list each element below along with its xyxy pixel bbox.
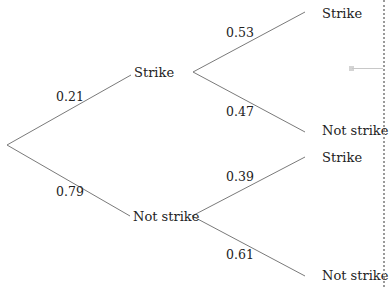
branch-not-strike-to-strike — [192, 157, 305, 216]
outcome-strike-strike: Strike — [322, 7, 362, 20]
node-not-strike: Not strike — [133, 210, 199, 223]
probability-strike-not-strike: 0.47 — [226, 106, 254, 119]
branch-strike-to-strike — [193, 12, 305, 72]
branch-root-to-strike — [7, 75, 131, 145]
outcome-not-strike-strike: Strike — [322, 151, 362, 164]
node-strike: Strike — [134, 66, 174, 79]
dotted-border — [383, 0, 385, 287]
outcome-not-strike-not-strike: Not strike — [322, 269, 388, 282]
probability-not-strike-not-strike: 0.61 — [226, 249, 254, 262]
probability-not-strike-strike: 0.39 — [226, 171, 254, 184]
probability-root-not-strike: 0.79 — [56, 186, 84, 199]
tree-diagram-canvas — [0, 0, 392, 287]
branch-not-strike-to-not-strike — [192, 216, 305, 276]
probability-strike-strike: 0.53 — [226, 27, 254, 40]
outcome-strike-not-strike: Not strike — [322, 124, 388, 137]
connector-line — [352, 68, 383, 69]
probability-root-strike: 0.21 — [56, 91, 84, 104]
branch-root-to-not-strike — [7, 145, 130, 216]
branch-strike-to-not-strike — [193, 72, 305, 132]
